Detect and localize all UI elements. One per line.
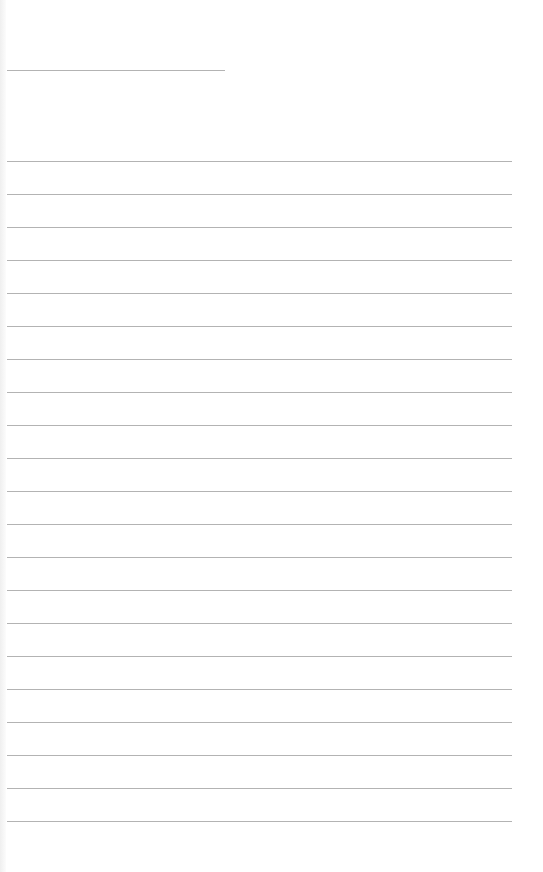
ruled-line [7, 392, 512, 393]
ruled-line [7, 161, 512, 162]
ruled-line [7, 260, 512, 261]
ruled-line [7, 458, 512, 459]
page-edge-shadow [0, 0, 6, 872]
ruled-line [7, 359, 512, 360]
ruled-line [7, 557, 512, 558]
lined-page [0, 0, 543, 872]
ruled-line [7, 491, 512, 492]
ruled-line [7, 623, 512, 624]
ruled-line [7, 788, 512, 789]
ruled-line [7, 722, 512, 723]
ruled-line [7, 194, 512, 195]
ruled-line [7, 755, 512, 756]
ruled-line [7, 227, 512, 228]
ruled-line [7, 524, 512, 525]
ruled-line [7, 326, 512, 327]
ruled-line [7, 689, 512, 690]
ruled-line [7, 656, 512, 657]
ruled-line [7, 821, 512, 822]
title-underline [7, 70, 225, 71]
ruled-line [7, 293, 512, 294]
ruled-line [7, 590, 512, 591]
ruled-line [7, 425, 512, 426]
